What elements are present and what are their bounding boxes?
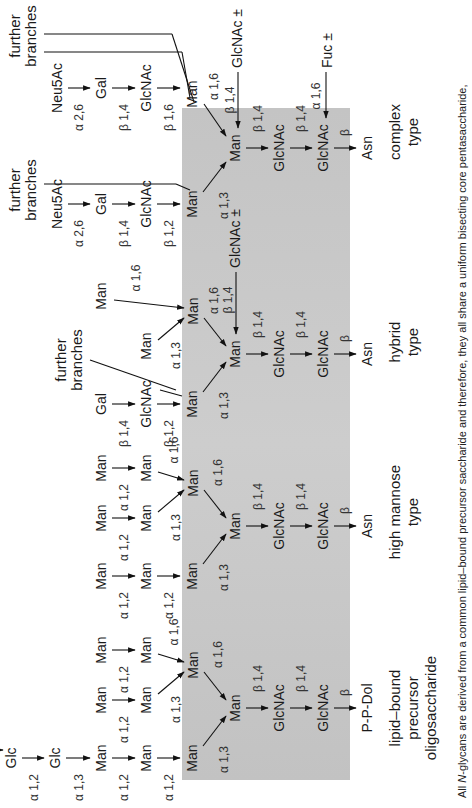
residue-man: Man xyxy=(227,134,243,161)
core-pentasaccharide-band xyxy=(182,108,350,780)
linkage-label: α 1,6 xyxy=(167,618,181,645)
linkage-label: β 1,4 xyxy=(221,286,235,313)
linkage-label: α 1,2 xyxy=(117,534,131,561)
residue-glcnac: GlcNAc xyxy=(271,330,287,377)
residue-man: Man xyxy=(227,694,243,721)
linkage-label: α 1,3 xyxy=(217,746,231,773)
residue-man: Man xyxy=(184,80,200,107)
column-label-line: oligosaccharide xyxy=(422,656,439,760)
residue-man: Man xyxy=(138,636,154,663)
linkage-label: α 1,2 xyxy=(117,592,131,619)
residue-neu5ac: Neu5Ac xyxy=(49,179,65,229)
linkage-label: β 1,4 xyxy=(294,483,308,510)
column-label-line: type xyxy=(404,498,421,526)
linkage-label: β 1,4 xyxy=(251,311,265,338)
linkage-label: α 1,2 xyxy=(117,774,131,801)
residue-man: Man xyxy=(93,454,109,481)
linkage-label: β 1,4 xyxy=(117,220,131,247)
linkage-label: α 1,6 xyxy=(207,73,221,100)
residue-man: Man xyxy=(185,297,201,324)
linkage-label: β 1,4 xyxy=(294,665,308,692)
linkage-label: β 1,6 xyxy=(162,104,176,131)
further-branches-label: further xyxy=(6,168,23,211)
further-branches-label: branches xyxy=(68,329,85,391)
linkage-label: β 1,4 xyxy=(294,311,308,338)
linkage-label: α 1,2 xyxy=(27,774,41,801)
residue-glcnac: GlcNAc xyxy=(138,64,154,111)
figure-caption: All N-glycans are derived from a common … xyxy=(456,84,468,798)
linkage-label: α 1,3 xyxy=(72,774,86,801)
linkage-label: α 1,6 xyxy=(207,287,221,314)
residue-man: Man xyxy=(184,390,200,417)
residue-gal: Gal xyxy=(93,393,109,415)
residue-neu5ac: Neu5Ac xyxy=(49,63,65,113)
linkage-label: α 1,3 xyxy=(217,564,231,591)
residue-glcnac: GlcNAc xyxy=(271,684,287,731)
residue-glcnac: GlcNAc xyxy=(315,330,331,377)
linkage-label: β 1,4 xyxy=(251,483,265,510)
further-branches-label: further xyxy=(6,14,23,57)
linkage-label: α 1,2 xyxy=(117,484,131,511)
linkage-label: α 1,6 xyxy=(309,82,323,109)
column-label-line: type xyxy=(404,328,421,356)
linkage-label: α 1,3 xyxy=(169,342,183,369)
column-label-line: lipid–bound xyxy=(386,670,403,747)
aglycone-asn: Asn xyxy=(359,514,375,538)
residue-glcnac: GlcNAc xyxy=(138,380,154,427)
further-branches-label: branches xyxy=(22,159,39,221)
residue-glcnac: GlcNAc xyxy=(315,684,331,731)
aglycone-p-p-dol: P-P-Dol xyxy=(359,683,375,732)
linkage-label: α 1,6 xyxy=(211,641,225,668)
linkage-label: α 1,3 xyxy=(217,392,231,419)
residue-glcnac: GlcNAc xyxy=(138,180,154,227)
linkage-label: β xyxy=(338,689,352,696)
linkage-label: β 1,4 xyxy=(117,104,131,131)
residue-man: Man xyxy=(93,744,109,771)
bisecting-glcnac-optional: GlcNAc ± xyxy=(229,9,245,68)
further-branches-label: further xyxy=(52,338,69,381)
linkage-label: β 1,4 xyxy=(223,86,237,113)
linkage-label: β 1,2 xyxy=(162,420,176,447)
residue-man: Man xyxy=(184,744,200,771)
linkage-label: β 1,4 xyxy=(251,665,265,692)
column-label-line: type xyxy=(404,118,421,146)
residue-glc: Glc xyxy=(47,748,63,769)
caption-italic-n: N xyxy=(456,775,468,783)
residue-man: Man xyxy=(138,504,154,531)
linkage-label: β xyxy=(338,335,352,342)
aglycone-asn: Asn xyxy=(359,136,375,160)
residue-man: Man xyxy=(93,636,109,663)
residue-man: Man xyxy=(138,454,154,481)
residue-man: Man xyxy=(93,686,109,713)
linkage-label: β 1,4 xyxy=(117,420,131,447)
residue-man: Man xyxy=(138,562,154,589)
linkage-label: α 1,6 xyxy=(211,459,225,486)
column-label-line: complex xyxy=(386,104,403,160)
linkage-label: α 2,6 xyxy=(72,220,86,247)
caption-text: -glycans are derived from a common lipid… xyxy=(456,84,468,774)
column-label-line: hybrid xyxy=(386,322,403,363)
residue-man: Man xyxy=(184,190,200,217)
caption-prefix: All xyxy=(456,783,468,798)
linkage-label: α 1,3 xyxy=(169,696,183,723)
residue-man: Man xyxy=(184,562,200,589)
residue-man: Man xyxy=(185,651,201,678)
column-label-line: high mannose xyxy=(386,465,403,559)
linkage-label: α 1,2 xyxy=(117,666,131,693)
residue-glcnac: GlcNAc xyxy=(315,502,331,549)
linkage-label: α 1,3 xyxy=(169,514,183,541)
linkage-label: β 1,4 xyxy=(294,105,308,132)
residue-gal: Gal xyxy=(93,77,109,99)
residue-man: Man xyxy=(93,562,109,589)
column-label-line: precursor xyxy=(404,676,421,739)
linkage-label: α 1,3 xyxy=(217,192,231,219)
residue-man: Man xyxy=(185,469,201,496)
residue-man: Man xyxy=(138,744,154,771)
linkage-label: α 1,2 xyxy=(162,774,176,801)
linkage-label: β xyxy=(338,507,352,514)
aglycone-asn: Asn xyxy=(359,342,375,366)
linkage-label: α 1,2 xyxy=(117,716,131,743)
further-branches-label: branches xyxy=(22,5,39,67)
linkage-label: β 1,4 xyxy=(251,105,265,132)
residue-man: Man xyxy=(138,686,154,713)
